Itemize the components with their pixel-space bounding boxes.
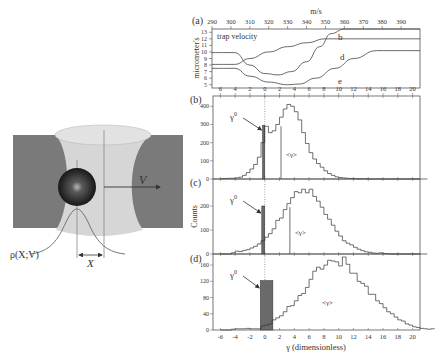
y-tick-label: 11 <box>201 42 207 48</box>
top-x-tick-label: 10 <box>335 85 342 92</box>
optical-trap-illustration: V X ρ(X;V) <box>10 125 183 269</box>
top-x-tick-label: 12 <box>350 85 357 92</box>
y-tick-label: 200 <box>200 140 209 146</box>
top-x-tick-label: 2 <box>248 85 251 92</box>
x-axis-label: m/s <box>310 7 322 16</box>
histogram-steps <box>220 257 434 330</box>
x-tick-label: 14 <box>365 333 372 340</box>
y-tick-label: 8 <box>204 62 207 68</box>
gamma0-arrow <box>243 118 262 130</box>
top-x-tick-label: 6 <box>219 85 223 92</box>
gamma0-arrow <box>243 201 261 213</box>
y-tick-label: 9 <box>204 56 207 62</box>
x-tick-label: -4 <box>232 333 238 340</box>
x-tick-label: 320 <box>264 18 274 25</box>
x-tick-label: 360 <box>339 18 349 25</box>
y-tick-label: 300 <box>200 121 209 127</box>
gamma0-label: γ0 <box>229 194 237 205</box>
x-axis-label: γ (dimensionless) <box>285 342 346 352</box>
x-tick-label: 370 <box>358 18 368 25</box>
x-tick-label: 6 <box>307 333 311 340</box>
panel-label-d: (d) <box>190 253 202 265</box>
top-x-tick-label: 0 <box>263 85 266 92</box>
trap-velocity-chart: 2903003103203303403503603703803905678910… <box>192 7 420 88</box>
plot-frame <box>213 179 420 254</box>
x-tick-label: 340 <box>302 18 312 25</box>
y-tick-label: 0 <box>206 176 209 182</box>
x-tick-label: 380 <box>377 18 387 25</box>
chart-title: trap velocity <box>217 32 257 41</box>
x-tick-label: -2 <box>247 333 252 340</box>
y-tick-label: 120 <box>200 278 209 284</box>
histogram-steps <box>220 189 427 254</box>
gamma0-label: γ0 <box>229 111 237 122</box>
beam-top-ellipse <box>55 125 151 145</box>
y-tick-label: 40 <box>203 311 209 317</box>
y-tick-label: 0 <box>206 251 209 257</box>
mean-label: <γ> <box>295 229 306 237</box>
y-tick-label: 5 <box>204 82 207 88</box>
x-tick-label: 0 <box>263 333 266 340</box>
x-tick-label: 4 <box>293 333 297 340</box>
mean-label: <γ> <box>286 151 297 159</box>
plot-frame <box>213 96 420 179</box>
gamma0-bar <box>260 281 273 330</box>
x-tick-label: 10 <box>335 333 342 340</box>
gamma0-label: γ0 <box>229 269 237 280</box>
plot-frame <box>213 254 420 330</box>
series-label-b: b <box>338 32 343 42</box>
top-x-tick-label: 14 <box>365 85 372 92</box>
x-tick-label: 310 <box>245 18 255 25</box>
top-x-tick-label: 4 <box>293 85 297 92</box>
y-tick-label: 12 <box>201 36 207 42</box>
particle-sphere <box>58 168 96 206</box>
histogram-c: 0100200Counts<γ>γ0 <box>190 179 427 257</box>
x-tick-label: 330 <box>283 18 293 25</box>
y-tick-label: 100 <box>200 227 209 233</box>
histogram-steps <box>220 104 427 179</box>
y-tick-label: 7 <box>204 69 207 75</box>
x-tick-label: -6 <box>218 333 224 340</box>
histogram-d: -6-4-202468101214161820γ (dimensionless)… <box>200 254 435 352</box>
top-x-tick-label: 4 <box>234 85 238 92</box>
x-tick-label: 12 <box>350 333 357 340</box>
x-tick-label: 290 <box>207 18 217 25</box>
top-x-tick-label: 18 <box>395 85 402 92</box>
mean-label: <γ> <box>322 299 333 307</box>
panel-label-c: (c) <box>190 177 201 189</box>
top-x-tick-label: 6 <box>307 85 311 92</box>
y-tick-label: 0 <box>206 327 209 333</box>
x-tick-label: 2 <box>278 333 281 340</box>
x-tick-label: 8 <box>322 333 325 340</box>
displacement-label: X <box>86 257 95 269</box>
y-tick-label: 13 <box>201 29 207 35</box>
y-tick-label: 200 <box>200 203 209 209</box>
series-line-e <box>212 51 420 85</box>
y-axis-label: Counts <box>190 205 199 228</box>
y-tick-label: 6 <box>204 75 207 81</box>
top-x-tick-label: 20 <box>409 85 416 92</box>
x-tick-label: 18 <box>395 333 402 340</box>
top-x-tick-label: 2 <box>278 85 281 92</box>
series-label-d: d <box>340 52 345 62</box>
x-tick-label: 350 <box>321 18 331 25</box>
distribution-label: ρ(X;V) <box>10 249 39 261</box>
figure: V X ρ(X;V) 29030031032033034035036037038… <box>0 0 436 360</box>
x-tick-label: 300 <box>226 18 236 25</box>
top-x-tick-label: 16 <box>380 85 387 92</box>
y-tick-label: 80 <box>203 295 209 301</box>
top-x-tick-label: 8 <box>322 85 325 92</box>
panel-label-a: (a) <box>192 15 203 27</box>
y-tick-label: 100 <box>200 158 209 164</box>
gamma0-bar <box>262 206 265 254</box>
y-axis-label: micrometer's <box>192 37 201 78</box>
gamma0-arrow <box>243 276 259 288</box>
x-tick-label: 390 <box>396 18 406 25</box>
panel-label-b: (b) <box>190 94 202 106</box>
x-tick-label: 20 <box>409 333 416 340</box>
histogram-b: 642024681012141618200100200300400<γ>γ0 <box>200 85 427 182</box>
x-tick-label: 16 <box>380 333 387 340</box>
y-tick-label: 10 <box>201 49 207 55</box>
